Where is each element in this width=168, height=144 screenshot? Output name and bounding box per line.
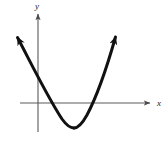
parabola-right-branch bbox=[74, 37, 116, 128]
coordinate-plane-svg: x y bbox=[0, 0, 168, 144]
x-axis-label: x bbox=[156, 98, 161, 108]
graph-figure: x y bbox=[0, 0, 168, 144]
y-axis-label: y bbox=[34, 1, 39, 11]
parabola-left-branch bbox=[18, 38, 75, 129]
